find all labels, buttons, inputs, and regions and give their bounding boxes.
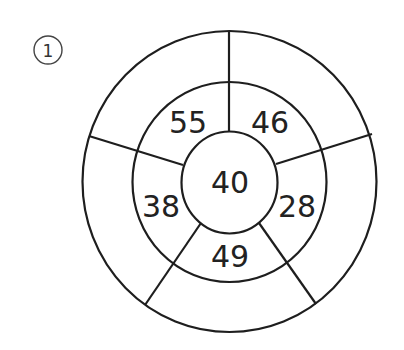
middle-value-upper-right: 46 xyxy=(251,105,289,140)
divider-lower-right xyxy=(259,223,316,304)
middle-value-right: 28 xyxy=(278,189,316,224)
middle-value-upper-left: 55 xyxy=(169,105,207,140)
number-wheel-diagram: 1 40 55 46 28 49 38 xyxy=(0,0,404,350)
problem-number: 1 xyxy=(43,41,54,61)
divider-lower-left xyxy=(145,223,201,305)
middle-value-left: 38 xyxy=(142,189,180,224)
divider-upper-left xyxy=(89,136,183,165)
center-value: 40 xyxy=(211,165,249,200)
problem-number-marker: 1 xyxy=(34,36,62,64)
middle-value-bottom: 49 xyxy=(211,239,249,274)
